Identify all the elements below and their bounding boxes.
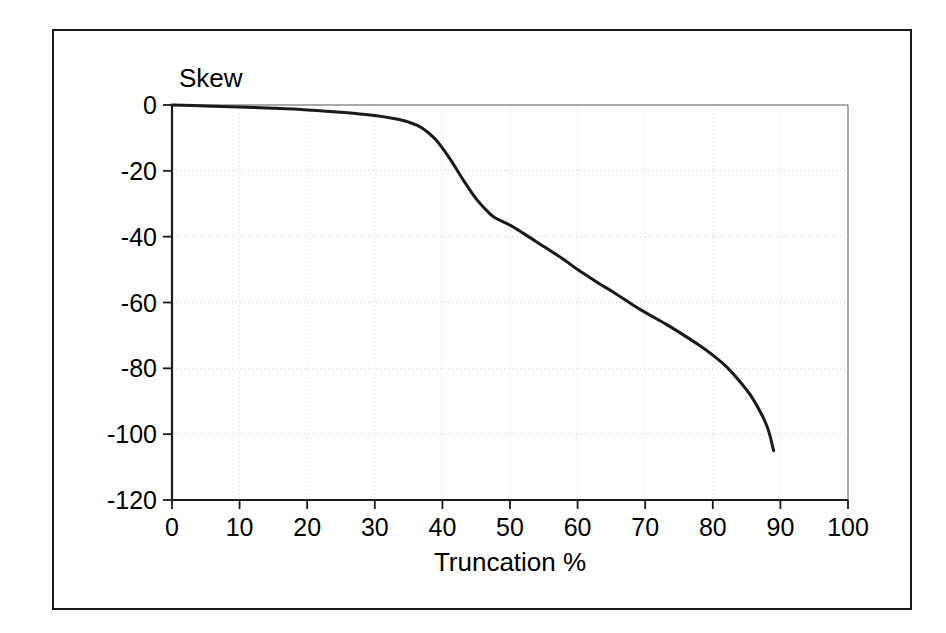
horizontal-gridlines bbox=[172, 171, 848, 434]
y-tick-label: 0 bbox=[143, 91, 157, 119]
y-axis-tick-labels: 0-20-40-60-80-100-120 bbox=[107, 91, 157, 514]
figure-page: 0102030405060708090100 0-20-40-60-80-100… bbox=[0, 0, 946, 633]
x-tick-label: 80 bbox=[699, 513, 727, 541]
y-tick-label: -60 bbox=[121, 289, 157, 317]
figure-border-frame: 0102030405060708090100 0-20-40-60-80-100… bbox=[52, 29, 912, 610]
y-axis-title: Skew bbox=[179, 63, 243, 93]
x-tick-label: 20 bbox=[293, 513, 321, 541]
y-tick-label: -40 bbox=[121, 223, 157, 251]
x-tick-label: 70 bbox=[631, 513, 659, 541]
x-axis-ticks bbox=[172, 500, 848, 509]
x-tick-label: 0 bbox=[165, 513, 179, 541]
skew-truncation-line-chart: 0102030405060708090100 0-20-40-60-80-100… bbox=[54, 31, 910, 608]
x-tick-label: 90 bbox=[766, 513, 794, 541]
x-tick-label: 60 bbox=[564, 513, 592, 541]
x-axis-tick-labels: 0102030405060708090100 bbox=[165, 513, 869, 541]
x-tick-label: 30 bbox=[361, 513, 389, 541]
x-tick-label: 100 bbox=[827, 513, 869, 541]
y-tick-label: -20 bbox=[121, 157, 157, 185]
y-tick-label: -100 bbox=[107, 420, 157, 448]
y-axis-ticks bbox=[163, 105, 172, 500]
y-tick-label: -80 bbox=[121, 354, 157, 382]
y-tick-label: -120 bbox=[107, 486, 157, 514]
x-tick-label: 10 bbox=[226, 513, 254, 541]
data-series-line bbox=[172, 105, 774, 451]
x-axis-title: Truncation % bbox=[434, 547, 586, 577]
x-tick-label: 40 bbox=[428, 513, 456, 541]
x-tick-label: 50 bbox=[496, 513, 524, 541]
